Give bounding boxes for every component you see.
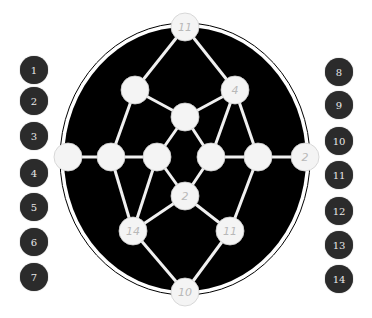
number-token-10[interactable]: 10 xyxy=(325,127,353,155)
number-token-9[interactable]: 9 xyxy=(325,91,353,119)
graph-node[interactable]: 11 xyxy=(171,13,199,41)
puzzle-board: 11422141110 xyxy=(0,0,372,318)
number-token-4[interactable]: 4 xyxy=(20,159,48,187)
graph-labeling-puzzle: 11422141110 1234567 891011121314 xyxy=(0,0,372,318)
graph-node[interactable] xyxy=(171,103,199,131)
node-circle[interactable] xyxy=(143,143,171,171)
node-label: 2 xyxy=(302,151,309,164)
node-label: 10 xyxy=(178,286,192,299)
graph-node[interactable]: 2 xyxy=(291,143,319,171)
graph-node[interactable]: 4 xyxy=(221,76,249,104)
graph-node[interactable]: 14 xyxy=(119,217,147,245)
number-token-6[interactable]: 6 xyxy=(20,228,48,256)
number-token-1[interactable]: 1 xyxy=(20,56,48,84)
node-label: 11 xyxy=(223,225,237,238)
graph-node[interactable] xyxy=(97,143,125,171)
node-circle[interactable] xyxy=(244,143,272,171)
graph-node[interactable] xyxy=(197,143,225,171)
number-token-8[interactable]: 8 xyxy=(325,58,353,86)
node-circle[interactable] xyxy=(97,143,125,171)
node-circle[interactable] xyxy=(171,103,199,131)
graph-node[interactable] xyxy=(143,143,171,171)
node-label: 14 xyxy=(126,225,140,238)
node-circle[interactable] xyxy=(121,76,149,104)
graph-node[interactable]: 10 xyxy=(171,278,199,306)
number-token-11[interactable]: 11 xyxy=(325,161,353,189)
graph-node[interactable] xyxy=(54,143,82,171)
graph-node[interactable]: 11 xyxy=(216,217,244,245)
number-token-14[interactable]: 14 xyxy=(325,265,353,293)
node-circle[interactable] xyxy=(54,143,82,171)
number-token-2[interactable]: 2 xyxy=(20,87,48,115)
node-circle[interactable] xyxy=(197,143,225,171)
number-token-5[interactable]: 5 xyxy=(20,193,48,221)
graph-node[interactable]: 2 xyxy=(171,182,199,210)
graph-node[interactable] xyxy=(121,76,149,104)
node-label: 11 xyxy=(178,21,192,34)
node-label: 4 xyxy=(232,84,239,97)
number-token-12[interactable]: 12 xyxy=(325,197,353,225)
graph-node[interactable] xyxy=(244,143,272,171)
node-label: 2 xyxy=(182,190,189,203)
number-token-7[interactable]: 7 xyxy=(20,263,48,291)
number-token-13[interactable]: 13 xyxy=(325,231,353,259)
number-token-3[interactable]: 3 xyxy=(20,122,48,150)
